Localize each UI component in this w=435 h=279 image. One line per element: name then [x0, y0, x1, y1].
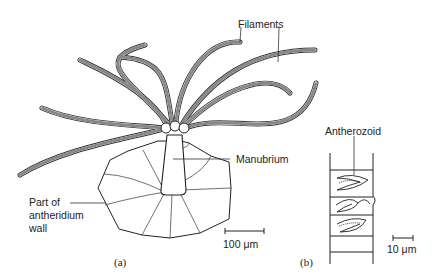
scale-bar-a [225, 228, 264, 234]
wall-label-line1: Part of [29, 196, 60, 208]
antherozoids [336, 175, 370, 232]
panel-label-b: (b) [300, 256, 313, 268]
manubrium-label: Manubrium [236, 153, 289, 165]
diagram-canvas [0, 0, 435, 279]
antherozoid-label: Antherozoid [325, 125, 381, 137]
scale-bar-b [393, 235, 413, 241]
manubrium-head-cells [161, 121, 189, 133]
filament-leader-2 [278, 27, 279, 62]
wall-label-line3: wall [29, 222, 47, 234]
panel-label-a: (a) [114, 256, 126, 268]
scale-label-b: 10 μm [387, 243, 416, 255]
scale-label-a: 100 μm [223, 238, 258, 250]
wall-label-line2: antheridium [29, 209, 84, 221]
filaments-label: Filaments [238, 18, 284, 30]
